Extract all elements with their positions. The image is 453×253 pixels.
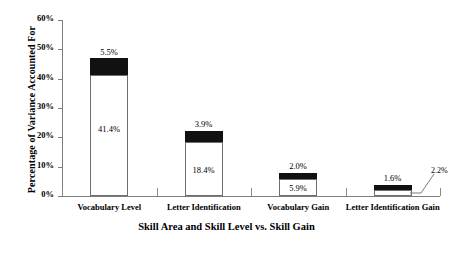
bar-label-lower: 18.4% [186, 165, 222, 175]
bar-letter-identification-gain[interactable]: 1.6% [374, 185, 412, 196]
x-category-label-0: Vocabulary Level [62, 202, 157, 212]
y-tick-10: 10% [58, 167, 62, 168]
bar-segment-lower[interactable] [374, 190, 412, 196]
bar-chart: Percentage of Variance Accounted For 60%… [0, 0, 453, 253]
x-category-label-3: Letter Identification Gain [346, 202, 441, 212]
bar-segment-lower[interactable]: 18.4% [185, 142, 223, 196]
bar-label-upper: 2.0% [279, 161, 317, 171]
y-tick-label-60: 60% [37, 13, 54, 23]
y-tick-40: 40% [58, 79, 62, 80]
bar-label-upper: 1.6% [374, 173, 412, 183]
bar-label-upper: 3.9% [185, 119, 223, 129]
y-axis-line [62, 20, 63, 196]
bar-segment-lower[interactable]: 5.9% [279, 179, 317, 196]
bar-segment-upper[interactable] [279, 173, 317, 179]
x-category-label-1: Letter Identification [157, 202, 252, 212]
y-tick-50: 50% [58, 49, 62, 50]
x-tick-3 [346, 188, 347, 196]
y-tick-label-50: 50% [37, 42, 54, 52]
y-tick-20: 20% [58, 137, 62, 138]
y-axis-title: Percentage of Variance Accounted For [26, 15, 37, 205]
chart-title: Skill Area and Skill Level vs. Skill Gai… [0, 221, 453, 232]
bar-vocabulary-gain[interactable]: 5.9% 2.0% [279, 173, 317, 196]
bar-label-lower: 5.9% [280, 183, 316, 193]
y-tick-label-0: 0% [41, 189, 54, 199]
x-tick-2 [251, 188, 252, 196]
x-tick-0 [62, 188, 63, 196]
plot-area: 60% 50% 40% 30% 20% 10% 0% 41.4% [62, 20, 440, 196]
y-tick-30: 30% [58, 108, 62, 109]
bar-label-upper: 5.5% [90, 47, 128, 57]
y-tick-label-40: 40% [37, 72, 54, 82]
bar-label-lower-callout: 2.2% [431, 166, 448, 175]
bar-letter-identification[interactable]: 18.4% 3.9% [185, 131, 223, 196]
bar-segment-upper[interactable] [185, 131, 223, 142]
x-category-label-2: Vocabulary Gain [251, 202, 346, 212]
y-tick-label-30: 30% [37, 101, 54, 111]
x-axis-line [62, 196, 440, 197]
bar-segment-upper[interactable] [90, 58, 128, 74]
bar-vocabulary-level[interactable]: 41.4% 5.5% [90, 58, 128, 196]
callout-leader-line [409, 172, 435, 194]
y-tick-0: 0% [58, 196, 62, 197]
y-tick-60: 60% [58, 20, 62, 21]
y-tick-label-20: 20% [37, 130, 54, 140]
bar-segment-lower[interactable]: 41.4% [90, 75, 128, 196]
x-tick-1 [157, 188, 158, 196]
bar-segment-upper[interactable] [374, 185, 412, 190]
bar-label-lower: 41.4% [91, 124, 127, 134]
y-tick-label-10: 10% [37, 160, 54, 170]
x-tick-4 [440, 188, 441, 196]
